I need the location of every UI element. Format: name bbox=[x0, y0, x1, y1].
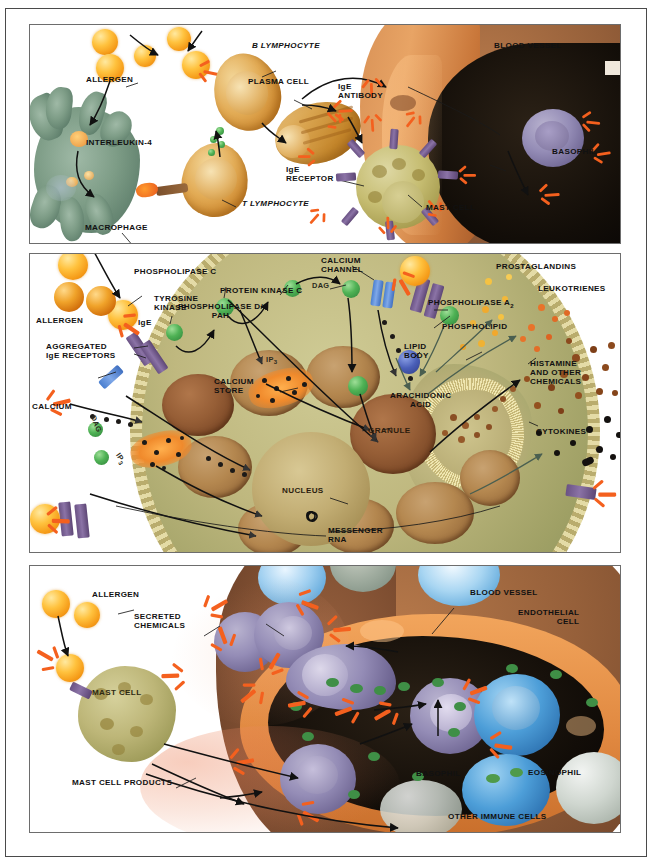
label-allergen: ALLERGEN bbox=[92, 590, 139, 599]
interleukin-4-molecule bbox=[216, 127, 224, 135]
mast-cell-body bbox=[78, 666, 176, 762]
label-macrophage: MACROPHAGE bbox=[85, 223, 148, 232]
granule-cell bbox=[396, 482, 474, 544]
label-histamine-and-other-chemicals: HISTAMINE AND OTHER CHEMICALS bbox=[530, 359, 581, 386]
basophil-nucleus bbox=[274, 616, 312, 650]
t-lymphocyte-nucleus bbox=[195, 158, 237, 200]
mast-granule bbox=[140, 694, 153, 705]
other-immune-cell bbox=[380, 780, 462, 833]
aggregated-ige-receptor bbox=[74, 503, 89, 538]
label-mast-cell: MAST CELL bbox=[426, 203, 475, 212]
mast-granule bbox=[100, 718, 114, 730]
label-blood-vessel: BLOOD VESSEL bbox=[470, 588, 538, 597]
label-leukotrienes: LEUKOTRIENES bbox=[538, 284, 606, 293]
eosinophil-granule bbox=[510, 768, 523, 777]
label-ige: IgE bbox=[138, 318, 152, 327]
label-calcium-channel: CALCIUM CHANNEL bbox=[321, 256, 363, 274]
macrophage-highlight bbox=[46, 175, 76, 201]
pkc-translocated bbox=[348, 376, 368, 396]
label-mast-cell-products: MAST CELL PRODUCTS bbox=[72, 778, 172, 787]
label-phospholipid: PHOSPHOLIPID bbox=[442, 322, 507, 331]
label-plasma-cell: PLASMA CELL bbox=[248, 77, 309, 86]
label-granule: GRANULE bbox=[368, 426, 410, 435]
basophil-nucleus bbox=[296, 756, 338, 794]
label-nucleus: NUCLEUS bbox=[282, 486, 324, 495]
mast-granule bbox=[412, 169, 425, 181]
label-prostaglandins: PROSTAGLANDINS bbox=[496, 262, 576, 271]
granule-cell bbox=[460, 450, 520, 506]
label-blood-vessel: BLOOD VESSEL bbox=[494, 41, 562, 50]
panel-mediator-effects: ALLERGEN SECRETED CHEMICALS MAST CELL MA… bbox=[29, 565, 621, 833]
vessel-cell-nucleus-1 bbox=[390, 95, 416, 111]
allergen-sphere bbox=[92, 29, 118, 55]
membrane-channel bbox=[98, 365, 124, 390]
label-b-lymphocyte: B LYMPHOCYTE bbox=[252, 41, 320, 50]
membrane-protein bbox=[94, 450, 109, 465]
label-calcium-store: CALCIUM STORE bbox=[214, 377, 254, 395]
interleukin-4-molecule bbox=[208, 149, 215, 156]
allergen-sphere bbox=[74, 602, 100, 628]
macrophage-vacuole-3 bbox=[84, 171, 94, 180]
label-secreted-chemicals: SECRETED CHEMICALS bbox=[134, 612, 185, 630]
allergen-sphere-bound bbox=[182, 51, 210, 79]
label-ip3: IP3 bbox=[266, 356, 277, 366]
allergen-sphere bbox=[58, 253, 88, 280]
label-mast-cell: MAST CELL bbox=[92, 688, 141, 697]
granule-cell bbox=[306, 346, 380, 408]
protein-kinase-c-protein bbox=[342, 280, 360, 298]
mast-granule bbox=[392, 158, 406, 170]
allergen-sphere bbox=[86, 286, 116, 316]
transmigrating-nucleus bbox=[430, 694, 472, 732]
label-eosinophil: EOSINOPHIL bbox=[528, 768, 581, 777]
figure-page: ALLERGEN INTERLEUKIN-4 MACROPHAGE B LYMP… bbox=[0, 0, 655, 868]
allergen-sphere bbox=[42, 590, 70, 618]
mast-granule bbox=[368, 191, 382, 203]
label-messenger-rna: MESSENGER RNA bbox=[328, 526, 383, 544]
eosinophil-granule bbox=[486, 774, 500, 783]
label-protein-kinase-c: PROTEIN KINASE C bbox=[220, 286, 303, 295]
allergen-sphere bbox=[167, 27, 191, 51]
interleukin-4-molecule bbox=[218, 141, 225, 148]
label-t-lymphocyte: T LYMPHOCYTE bbox=[242, 199, 309, 208]
label-calcium: CALCIUM bbox=[32, 402, 72, 411]
label-endothelial-cell: ENDOTHELIAL CELL bbox=[518, 608, 579, 626]
mast-granule bbox=[112, 744, 125, 755]
label-arachidonic-acid: ARACHIDONIC ACID bbox=[390, 391, 451, 409]
label-basophil: BASOPHIL bbox=[552, 147, 597, 156]
interleukin-4-molecule bbox=[210, 136, 217, 143]
panel-sensitization: ALLERGEN INTERLEUKIN-4 MACROPHAGE B LYMP… bbox=[29, 24, 621, 244]
label-ip3: IP3 bbox=[112, 452, 127, 467]
label-ige-receptor: IgE RECEPTOR bbox=[286, 165, 334, 183]
eosinophil-nucleus bbox=[492, 686, 540, 730]
label-phospholipase-a2: PHOSPHOLIPASE A2 bbox=[428, 298, 514, 309]
endothelial-nucleus bbox=[360, 620, 404, 642]
label-phospholipase-d-pah: PHOSPHOLIPASE D/ PAH bbox=[178, 302, 263, 320]
label-cytokines: CYTOKINES bbox=[536, 427, 586, 436]
label-lipid-body: LIPID BODY bbox=[404, 342, 429, 360]
label-ige-antibody: IgE ANTIBODY bbox=[338, 82, 383, 100]
panel-signal-transduction: ALLERGEN IgE AGGREGATED IgE RECEPTORS CA… bbox=[29, 253, 621, 553]
allergen-sphere bbox=[54, 282, 84, 312]
label-other-immune-cells: OTHER IMMUNE CELLS bbox=[448, 812, 546, 821]
mast-granule bbox=[372, 165, 387, 178]
label-phospholipase-c: PHOSPHOLIPASE C bbox=[134, 267, 216, 276]
label-aggregated-ige-receptors: AGGREGATED IgE RECEPTORS bbox=[46, 342, 116, 360]
tyrosine-kinase-protein bbox=[166, 324, 183, 341]
label-allergen: ALLERGEN bbox=[86, 75, 133, 84]
label-basophil: BASOPHIL bbox=[416, 769, 461, 778]
mhc-peptide-complex bbox=[135, 181, 159, 199]
mast-granule bbox=[130, 726, 143, 737]
rolling-cell-nucleus bbox=[302, 654, 348, 696]
allergen-sphere bbox=[134, 45, 156, 67]
label-allergen: ALLERGEN bbox=[36, 316, 83, 325]
endothelial-nucleus bbox=[566, 716, 596, 736]
allergen-sphere-bound bbox=[56, 654, 84, 682]
label-interleukin-4: INTERLEUKIN-4 bbox=[86, 138, 152, 147]
vessel-notch bbox=[605, 61, 621, 75]
label-dag: DAG bbox=[312, 282, 329, 290]
